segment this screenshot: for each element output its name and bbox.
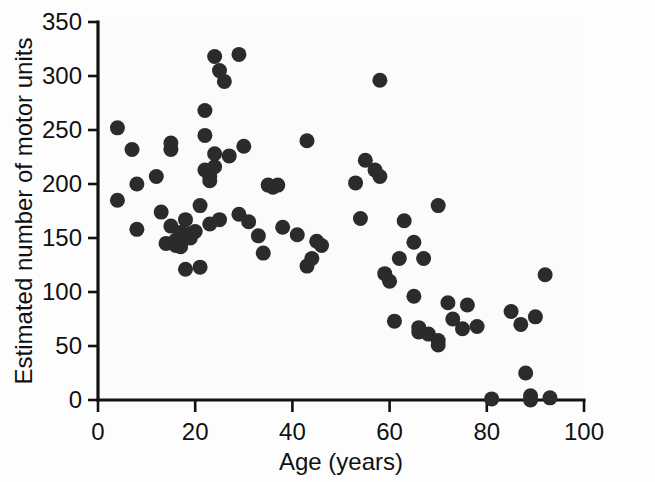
x-tick-label-0: 0	[91, 418, 104, 445]
data-point	[406, 235, 421, 250]
data-point	[382, 274, 397, 289]
data-point	[455, 321, 470, 336]
data-point	[518, 366, 533, 381]
data-point	[207, 49, 222, 64]
data-point	[154, 205, 169, 220]
data-point	[528, 309, 543, 324]
data-point	[110, 193, 125, 208]
data-point	[207, 159, 222, 174]
y-tick-label-50: 50	[55, 332, 82, 359]
data-point	[353, 211, 368, 226]
x-tick-label-40: 40	[279, 418, 306, 445]
data-point	[416, 251, 431, 266]
x-tick-label-80: 80	[473, 418, 500, 445]
data-point	[542, 390, 557, 405]
data-point	[504, 304, 519, 319]
data-point	[460, 297, 475, 312]
data-point	[149, 169, 164, 184]
data-point	[256, 246, 271, 261]
data-point	[110, 120, 125, 135]
data-point	[387, 314, 402, 329]
y-tick-label-100: 100	[42, 278, 82, 305]
data-point	[193, 260, 208, 275]
data-point	[222, 148, 237, 163]
data-point	[178, 212, 193, 227]
data-point	[406, 289, 421, 304]
data-point	[299, 133, 314, 148]
data-point	[275, 220, 290, 235]
data-point	[431, 337, 446, 352]
data-point	[513, 317, 528, 332]
plot-area-background	[98, 22, 584, 400]
data-point	[125, 142, 140, 157]
data-point	[212, 212, 227, 227]
data-point	[197, 128, 212, 143]
data-point	[129, 177, 144, 192]
data-point	[397, 213, 412, 228]
x-axis-title: Age (years)	[279, 448, 403, 475]
data-point	[538, 267, 553, 282]
x-axis-ticks	[98, 400, 584, 412]
data-point	[217, 74, 232, 89]
data-point	[197, 103, 212, 118]
y-tick-label-350: 350	[42, 8, 82, 35]
data-point	[129, 222, 144, 237]
scatter-plot-figure: 050100150200250300350 020406080100 Age (…	[0, 0, 655, 482]
data-point	[484, 391, 499, 406]
y-axis-tick-labels: 050100150200250300350	[42, 8, 82, 413]
y-tick-label-150: 150	[42, 224, 82, 251]
data-point	[523, 393, 538, 408]
data-point	[207, 146, 222, 161]
data-point	[348, 175, 363, 190]
data-point	[231, 47, 246, 62]
data-point	[241, 214, 256, 229]
plot-canvas: 050100150200250300350 020406080100 Age (…	[0, 0, 655, 482]
data-point	[202, 173, 217, 188]
data-point	[193, 198, 208, 213]
data-point	[304, 251, 319, 266]
y-tick-label-300: 300	[42, 62, 82, 89]
data-point	[440, 295, 455, 310]
data-point	[290, 227, 305, 242]
y-tick-label-0: 0	[69, 386, 82, 413]
data-point	[470, 319, 485, 334]
data-point	[188, 224, 203, 239]
data-point	[270, 178, 285, 193]
data-point	[372, 169, 387, 184]
y-axis-title: Estimated number of motor units	[10, 38, 37, 385]
data-point	[163, 135, 178, 150]
y-tick-label-200: 200	[42, 170, 82, 197]
x-axis-tick-labels: 020406080100	[91, 418, 604, 445]
data-point	[314, 238, 329, 253]
data-point	[372, 73, 387, 88]
data-point	[236, 139, 251, 154]
x-tick-label-60: 60	[376, 418, 403, 445]
x-tick-label-100: 100	[564, 418, 604, 445]
data-point	[431, 198, 446, 213]
data-point	[392, 251, 407, 266]
data-point	[178, 262, 193, 277]
x-tick-label-20: 20	[182, 418, 209, 445]
y-tick-label-250: 250	[42, 116, 82, 143]
data-point	[251, 228, 266, 243]
